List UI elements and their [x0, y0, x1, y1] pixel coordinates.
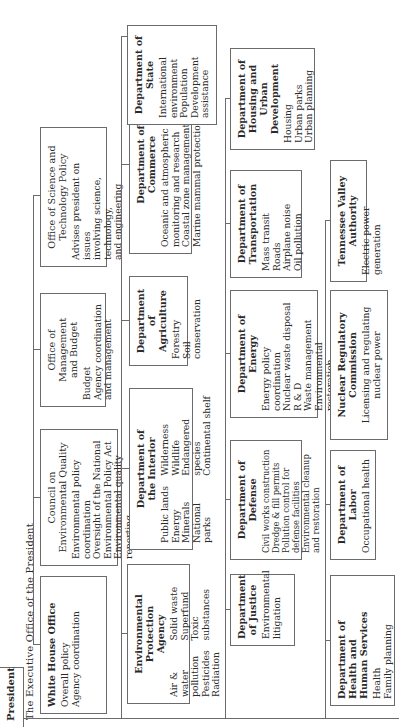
- defense-items: Civil works construction Dredge & fill p…: [261, 447, 321, 553]
- eop-connector: [33, 195, 34, 645]
- transportation-items: Mass transit Roads Airplane noise Oil po…: [261, 177, 303, 271]
- defense-title: Department of Defense: [236, 447, 258, 553]
- interior-items-col1: Public lands Energy Minerals National pa…: [160, 484, 213, 543]
- ceq-title: Council on Environmental Quality: [46, 436, 68, 559]
- ostp-box: Office of Science and Technology Policy …: [40, 127, 107, 267]
- energy-box: Department of Energy Energy policy coord…: [230, 290, 318, 418]
- eop-stub-2: [33, 497, 40, 498]
- eop-stub-4: [33, 195, 40, 196]
- state-title: Department of State: [133, 32, 155, 118]
- justice-title: Department of Justice: [236, 581, 258, 639]
- agriculture-box: Department of Agriculture Forestry Soil …: [129, 276, 188, 366]
- transportation-title: Department of Transportation: [236, 177, 258, 271]
- labor-items: Occupational health: [361, 457, 372, 553]
- interior-items-col2: Wilderness Wildlife Endangered species C…: [160, 395, 213, 476]
- state-box: Department of State International enviro…: [127, 25, 217, 125]
- president-label: President: [0, 667, 24, 727]
- omb-title: Office of Management and Budget: [46, 300, 79, 400]
- state-items: International environment Population Dev…: [158, 32, 211, 118]
- row2-connector: [225, 99, 226, 719]
- white-house-office-box: White House Office Overall policy Agency…: [40, 576, 107, 714]
- white-house-office-title: White House Office: [46, 583, 57, 707]
- tva-title: Tennessee Valley Authority: [336, 167, 358, 275]
- hhs-box: Department of Health and Human Services …: [330, 575, 395, 706]
- nrc-box: Nuclear Regulatory Commission Licensing …: [330, 290, 388, 440]
- agriculture-items: Forestry Soil conservation: [171, 283, 203, 359]
- nrc-items: Licensing and regulating nuclear power: [361, 297, 382, 433]
- epa-items-col1: Air & water pollution Pesticides Radiati…: [169, 649, 222, 697]
- row1-stub-agriculture: [121, 320, 129, 321]
- ostp-items: Advises president on issues involving sc…: [71, 134, 124, 260]
- justice-items: Environmental litigation: [261, 581, 282, 639]
- hud-box: Department of Housing and Urban Developm…: [230, 48, 315, 150]
- interior-title: Department of the Interior: [135, 395, 157, 543]
- tva-items: Electric power generation: [361, 167, 382, 275]
- eop-stub-1: [33, 644, 40, 645]
- row1-stub-commerce: [121, 164, 129, 165]
- energy-title: Department of Energy: [236, 297, 258, 411]
- white-house-office-items: Overall policy Agency coordination: [60, 583, 81, 707]
- row3-connector: [325, 221, 326, 719]
- hhs-items: Health Family planning: [372, 582, 393, 699]
- justice-box: Department of Justice Environmental liti…: [230, 574, 295, 646]
- ceq-items: Environmental policy coordination Oversi…: [71, 436, 135, 559]
- labor-box: Department of Labor Occupational health: [330, 450, 376, 560]
- hud-title: Department of Housing and Urban Developm…: [236, 55, 280, 143]
- tva-box: Tennessee Valley Authority Electric powe…: [330, 160, 367, 282]
- labor-title: Department of Labor: [336, 457, 358, 553]
- row1-connector: [121, 37, 122, 719]
- eop-stub-3: [33, 349, 40, 350]
- interior-box: Department of the Interior Public lands …: [129, 388, 193, 550]
- trunk-line: [24, 718, 399, 719]
- epa-title: Environmental Protection Agency: [133, 571, 166, 697]
- ostp-title: Office of Science and Technology Policy: [46, 134, 68, 260]
- defense-box: Department of Defense Civil works constr…: [230, 440, 302, 560]
- hud-items: Housing Urban parks Urban planning: [283, 55, 315, 143]
- epa-box: Environmental Protection Agency Air & wa…: [127, 564, 190, 704]
- row1-stub-interior: [121, 468, 129, 469]
- epa-items-col2: Solid waste Superfund Toxic substances: [169, 571, 222, 641]
- ceq-box: Council on Environmental Quality Environ…: [40, 429, 118, 566]
- agriculture-title: Department of Agriculture: [135, 283, 168, 359]
- org-chart: President The Executive Office of the Pr…: [0, 0, 406, 727]
- nrc-title: Nuclear Regulatory Commission: [336, 297, 358, 433]
- transportation-box: Department of Transportation Mass transi…: [230, 170, 302, 278]
- hhs-title: Department of Health and Human Services: [336, 582, 369, 699]
- omb-items: Budget Agency coordination and managemen…: [82, 300, 114, 400]
- omb-box: Office of Management and Budget Budget A…: [40, 293, 106, 407]
